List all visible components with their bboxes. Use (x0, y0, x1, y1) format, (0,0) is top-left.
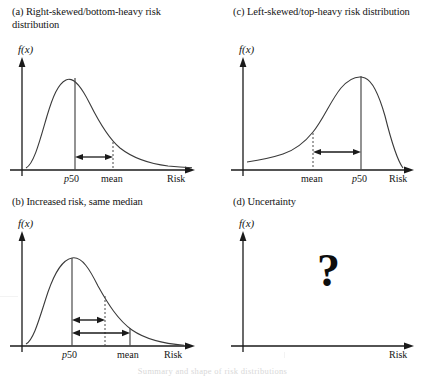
risk-distribution-figure: (a) Right-skewed/bottom-heavy risk distr… (0, 0, 425, 380)
panel-b-spread-arrow-long-right-head (122, 330, 130, 336)
panel-b-mean-label: mean (117, 350, 139, 360)
panel-c-density-curve (247, 77, 403, 168)
panel-c-x-axis-label: Risk (389, 174, 407, 184)
panel-b-x-axis-arrowhead (185, 342, 195, 349)
bottom-caption: Summary and shape of risk distributions (0, 366, 425, 376)
panel-b-median-label: p50 (62, 350, 77, 360)
panel-a-spread-arrow-left-head (75, 154, 83, 160)
panel-c-mean-label: mean (301, 174, 323, 184)
panel-a-density-curve (26, 79, 192, 168)
panel-c-spread-arrow-right-head (353, 149, 361, 155)
panel-c-plot (213, 0, 425, 190)
panel-a-spread-arrow-right-head (105, 154, 113, 160)
panel-a-plot (0, 0, 212, 190)
panel-d-x-axis-label: Risk (389, 350, 407, 360)
panel-d-y-axis-arrowhead (240, 231, 247, 241)
panel-b-spread-arrow-long-left-head (72, 330, 80, 336)
panel-c-left-skewed: (c) Left-skewed/top-heavy risk distribut… (213, 0, 425, 190)
panel-a-x-axis-label: Risk (167, 174, 185, 184)
panel-b-x-axis-label: Risk (164, 350, 182, 360)
panel-c-median-label: p50 (352, 174, 367, 184)
uncertainty-question-mark-icon: ? (317, 248, 340, 294)
scan-artifact-left (0, 296, 18, 297)
panel-c-spread-arrow-left-head (313, 149, 321, 155)
panel-b-y-axis-arrowhead (19, 231, 26, 241)
panel-c-y-axis-arrowhead (240, 57, 247, 67)
scan-artifact-center (284, 352, 285, 358)
panel-a-y-axis-arrowhead (19, 57, 26, 67)
panel-a-right-skewed: (a) Right-skewed/bottom-heavy risk distr… (0, 0, 212, 190)
panel-a-mean-label: mean (101, 174, 123, 184)
panel-b-increased-risk: (b) Increased risk, same median f(x) (0, 190, 212, 380)
panel-b-spread-arrow-short-right-head (97, 317, 105, 323)
panel-b-spread-arrow-short-left-head (72, 317, 80, 323)
panel-a-median-label: p50 (64, 174, 79, 184)
panel-d-uncertainty: (d) Uncertainty f(x) ? Risk (213, 190, 425, 380)
